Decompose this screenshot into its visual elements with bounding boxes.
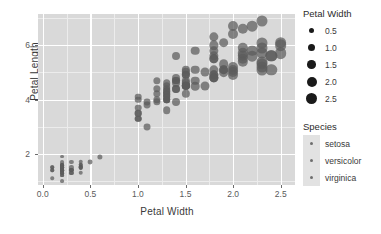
circle-icon	[310, 176, 313, 179]
x-axis-tick-mark	[138, 185, 139, 188]
legend-item-petal-width[interactable]: 2.5	[303, 90, 381, 107]
data-point	[200, 68, 209, 77]
data-point	[181, 90, 189, 98]
circle-icon	[310, 159, 313, 162]
legend-key-swatch	[303, 73, 320, 90]
y-axis-tick-label: 6	[25, 40, 30, 50]
data-point	[209, 54, 218, 63]
legend-item-petal-width[interactable]: 0.5	[303, 22, 381, 39]
data-point	[275, 48, 287, 60]
data-point	[135, 93, 142, 100]
data-point	[163, 93, 171, 101]
gridline-minor-horizontal	[38, 181, 295, 182]
x-axis-tick-mark	[90, 185, 91, 188]
x-axis-tick-mark	[43, 185, 44, 188]
legend-item-label: 2.0	[325, 77, 337, 87]
data-point	[144, 101, 151, 108]
data-point	[200, 81, 209, 90]
data-point	[219, 68, 229, 78]
data-point	[191, 82, 200, 91]
legend-item-petal-width[interactable]: 1.5	[303, 56, 381, 73]
legend-key-swatch	[303, 152, 320, 169]
data-point	[172, 79, 180, 87]
legend-item-petal-width[interactable]: 1.0	[303, 39, 381, 56]
circle-icon	[308, 44, 315, 51]
legend-item-species[interactable]: virginica	[303, 169, 381, 186]
data-point	[135, 115, 142, 122]
x-axis-title: Petal Width	[38, 206, 296, 217]
data-point	[153, 77, 160, 84]
data-point	[135, 104, 142, 111]
legend-item-petal-width[interactable]: 2.0	[303, 73, 381, 90]
data-point	[209, 73, 218, 82]
legend-item-label: 0.5	[325, 26, 337, 36]
legend-item-species[interactable]: versicolor	[303, 152, 381, 169]
data-point	[228, 62, 238, 72]
y-axis-tick-label: 2	[25, 149, 30, 159]
y-axis-tick-mark	[35, 154, 38, 155]
data-point	[256, 42, 267, 53]
legend-key-swatch	[303, 135, 320, 152]
data-point	[60, 155, 64, 159]
legend-key-swatch	[303, 90, 320, 107]
data-point	[172, 52, 180, 60]
legend-item-label: setosa	[325, 139, 350, 149]
data-point	[228, 29, 238, 39]
x-axis-tick-mark	[186, 185, 187, 188]
data-point	[69, 160, 73, 164]
data-point	[60, 179, 64, 183]
x-axis-tick-label: 0.0	[37, 189, 49, 199]
legend-species: Species setosaversicolorvirginica	[303, 121, 381, 186]
data-point	[219, 38, 229, 48]
x-axis-tick-mark	[281, 185, 282, 188]
x-axis-tick-label: 1.5	[180, 189, 192, 199]
data-point	[79, 171, 84, 176]
data-point	[88, 159, 93, 164]
legend-petal-width: Petal Width 0.51.01.52.02.5	[303, 8, 381, 107]
gridline-major-horizontal	[38, 154, 295, 155]
data-point	[172, 98, 180, 106]
data-point	[237, 56, 247, 66]
legend-item-label: virginica	[325, 173, 356, 183]
legend-item-label: versicolor	[325, 156, 361, 166]
data-point	[144, 123, 151, 130]
scatter-plot-figure: Petal Length Petal Width 246 Petal Width…	[0, 0, 381, 234]
x-axis-tick-label: 1.0	[132, 189, 144, 199]
plot-panel	[38, 14, 295, 185]
circle-icon	[306, 93, 318, 105]
legend-item-label: 1.5	[325, 60, 337, 70]
legend-key-swatch	[303, 169, 320, 186]
data-point	[256, 56, 267, 67]
legend-species-title: Species	[303, 121, 381, 132]
x-axis-tick-mark	[233, 185, 234, 188]
x-axis-tick-label: 2.5	[275, 189, 287, 199]
legend-item-label: 1.0	[325, 43, 337, 53]
data-point	[266, 64, 277, 75]
circle-icon	[307, 77, 317, 87]
data-point	[256, 15, 267, 26]
legend-area: Petal Width 0.51.01.52.02.5 Species seto…	[303, 8, 381, 186]
legend-petal-width-title: Petal Width	[303, 8, 381, 19]
gridline-minor-horizontal	[38, 127, 295, 128]
data-point	[51, 176, 55, 180]
data-point	[51, 168, 55, 172]
legend-key-swatch	[303, 39, 320, 56]
data-point	[79, 162, 84, 167]
data-point	[191, 65, 200, 74]
circle-icon	[310, 142, 313, 145]
data-point	[163, 107, 171, 115]
x-axis-tick-label: 2.0	[227, 189, 239, 199]
x-axis-tick-label: 0.5	[84, 189, 96, 199]
legend-key-swatch	[303, 22, 320, 39]
data-point	[60, 168, 64, 172]
data-point	[97, 154, 102, 159]
legend-item-label: 2.5	[325, 94, 337, 104]
legend-item-species[interactable]: setosa	[303, 135, 381, 152]
y-axis-tick-label: 4	[25, 95, 30, 105]
circle-icon	[309, 28, 314, 33]
circle-icon	[307, 60, 316, 69]
data-point	[191, 46, 200, 55]
y-axis-tick-labels: 246	[10, 0, 30, 234]
y-axis-tick-mark	[35, 45, 38, 46]
legend-key-swatch	[303, 56, 320, 73]
